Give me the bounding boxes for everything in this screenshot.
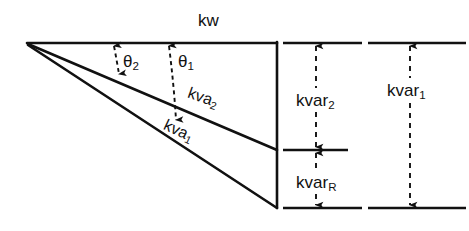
theta2-subscript: 2: [132, 60, 138, 72]
kva2-line: [28, 44, 277, 150]
kw-label: kw: [198, 12, 219, 29]
kvar1-subscript: 1: [419, 89, 425, 101]
kva1-line: [28, 45, 277, 208]
power-triangle-figure: kw θ2 θ1 kva2 kva1 kvar2 kvarR kvar1: [0, 0, 469, 231]
kvar2-label-text: kvar: [296, 91, 328, 110]
theta1-angle-arc: [169, 46, 176, 120]
kvarR-label-text: kvar: [296, 173, 328, 192]
kvar1-label: kvar1: [385, 81, 428, 100]
kvar2-subscript: 2: [328, 99, 334, 111]
theta1-label: θ1: [178, 53, 194, 70]
kw-label-text: kw: [198, 11, 219, 30]
kvar2-label: kvar2: [294, 91, 337, 110]
diagram-canvas: [0, 0, 469, 231]
theta1-subscript: 1: [187, 60, 193, 72]
kvarR-subscript: R: [328, 181, 336, 193]
theta2-angle-arc: [114, 46, 119, 74]
theta2-label: θ2: [123, 53, 139, 70]
kvar1-label-text: kvar: [387, 81, 419, 100]
kvarR-label: kvarR: [294, 173, 338, 192]
